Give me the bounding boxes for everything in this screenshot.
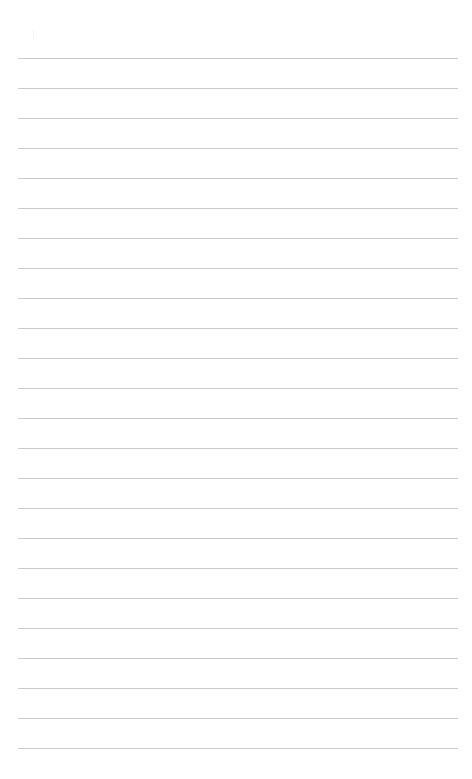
rule-line <box>18 268 458 269</box>
lined-paper-page <box>0 0 472 779</box>
rule-line <box>18 178 458 179</box>
rule-line <box>18 118 458 119</box>
rule-line <box>18 598 458 599</box>
rule-line <box>18 298 458 299</box>
rule-line <box>18 388 458 389</box>
rule-line <box>18 538 458 539</box>
rule-line <box>18 358 458 359</box>
rule-line <box>18 208 458 209</box>
rule-line <box>18 688 458 689</box>
rule-line <box>18 508 458 509</box>
rule-line <box>18 58 458 59</box>
rule-line <box>18 748 458 749</box>
rule-line <box>18 718 458 719</box>
ruled-lines-area <box>0 0 472 779</box>
rule-line <box>18 88 458 89</box>
faint-tick-mark <box>33 30 34 39</box>
rule-line <box>18 418 458 419</box>
rule-line <box>18 448 458 449</box>
rule-line <box>18 238 458 239</box>
rule-line <box>18 568 458 569</box>
rule-line <box>18 478 458 479</box>
rule-line <box>18 658 458 659</box>
rule-line <box>18 628 458 629</box>
rule-line <box>18 148 458 149</box>
rule-line <box>18 328 458 329</box>
